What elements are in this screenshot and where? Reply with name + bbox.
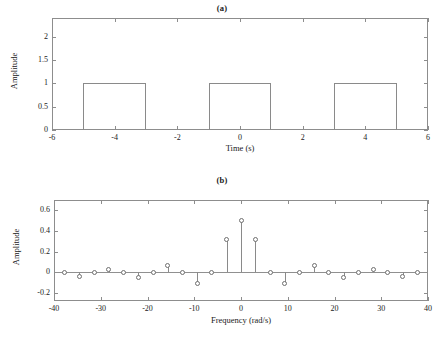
- panel-a-x-tickmark: [177, 126, 178, 130]
- panel-b-x-tickmark: [194, 297, 195, 301]
- panel-a-y-tick-label: 1: [10, 78, 48, 87]
- stem-marker: [239, 218, 244, 223]
- panel-a-x-tickmark-top: [177, 18, 178, 22]
- panel-a-y-tickmark: [52, 107, 56, 108]
- panel-a-y-tickmark-right: [424, 37, 428, 38]
- panel-b-x-tickmark-top: [288, 200, 289, 204]
- panel-a-x-tick-label: -6: [32, 133, 72, 142]
- panel-b-x-tickmark: [241, 297, 242, 301]
- panel-b-y-tickmark-right: [424, 231, 428, 232]
- panel-a-x-tick-label: -4: [95, 133, 135, 142]
- panel-b-x-tick-label: 10: [268, 304, 308, 313]
- panel-b-y-tickmark: [54, 293, 58, 294]
- panel-b-x-tickmark-top: [335, 200, 336, 204]
- panel-a-x-tick-label: 2: [283, 133, 323, 142]
- panel-b-x-tickmark-top: [101, 200, 102, 204]
- stem-marker: [385, 270, 390, 275]
- panel-b-x-tickmark-top: [194, 200, 195, 204]
- stem-marker: [268, 270, 273, 275]
- panel-a-y-tickmark-right: [424, 60, 428, 61]
- panel-b-x-tickmark-top: [241, 200, 242, 204]
- panel-b-y-tickmark-right: [424, 210, 428, 211]
- stem-marker: [106, 267, 111, 272]
- stem-line: [227, 239, 228, 272]
- panel-b-y-tickmark: [54, 210, 58, 211]
- panel-a-y-tick-label: 0.5: [10, 102, 48, 111]
- panel-b-y-tick-label: 0.6: [10, 205, 50, 214]
- stem-marker: [121, 270, 126, 275]
- stem-marker: [224, 237, 229, 242]
- panel-b-title: (b): [0, 175, 444, 185]
- panel-a-x-tick-label: 6: [408, 133, 444, 142]
- panel-a-x-tickmark-top: [428, 18, 429, 22]
- stem-marker: [180, 270, 185, 275]
- stem-marker: [92, 270, 97, 275]
- panel-b-x-tick-label: 0: [221, 304, 261, 313]
- panel-b-y-tickmark: [54, 231, 58, 232]
- stem-marker: [356, 270, 361, 275]
- panel-b-x-tickmark-top: [381, 200, 382, 204]
- stem-line: [241, 221, 242, 273]
- panel-a-y-tickmark: [52, 130, 56, 131]
- panel-a-y-tickmark: [52, 37, 56, 38]
- stem-marker: [209, 270, 214, 275]
- panel-b-x-tick-label: -40: [34, 304, 74, 313]
- panel-b-x-tickmark: [381, 297, 382, 301]
- stem-line: [255, 239, 256, 272]
- panel-a-x-tickmark-top: [52, 18, 53, 22]
- panel-b-x-tickmark: [54, 297, 55, 301]
- panel-b-y-tickmark-right: [424, 252, 428, 253]
- panel-b-x-tickmark: [288, 297, 289, 301]
- panel-b-x-tick-label: -30: [81, 304, 121, 313]
- panel-b-x-tickmark-top: [148, 200, 149, 204]
- panel-a-y-axis-label: Amplitude: [9, 41, 19, 101]
- stem-marker: [62, 270, 67, 275]
- panel-b-y-tick-label: 0: [10, 267, 50, 276]
- panel-a: (a) Amplitude Time (s) 00.511.52-6-4-202…: [0, 0, 444, 170]
- stem-marker: [371, 267, 376, 272]
- panel-b-x-tick-label: -20: [128, 304, 168, 313]
- panel-b-x-tickmark: [148, 297, 149, 301]
- figure-caption-cropped: [0, 332, 444, 341]
- panel-a-y-tick-label: 1.5: [10, 55, 48, 64]
- pulse-rectangle: [209, 83, 272, 130]
- zero-baseline: [55, 272, 427, 273]
- panel-b-x-tickmark: [101, 297, 102, 301]
- stem-marker: [253, 237, 258, 242]
- panel-a-y-tickmark-right: [424, 130, 428, 131]
- stem-marker: [195, 281, 200, 286]
- panel-b-x-tickmark-top: [54, 200, 55, 204]
- panel-a-y-tickmark: [52, 60, 56, 61]
- panel-b-x-tickmark: [428, 297, 429, 301]
- panel-b-y-tick-label: 0.4: [10, 226, 50, 235]
- panel-b-x-tick-label: 40: [408, 304, 444, 313]
- panel-b-y-tick-label: 0.2: [10, 247, 50, 256]
- panel-b-x-tickmark: [335, 297, 336, 301]
- pulse-rectangle: [83, 83, 146, 130]
- stem-marker: [312, 263, 317, 268]
- panel-b-x-tick-label: -10: [174, 304, 214, 313]
- panel-a-y-tickmark-right: [424, 83, 428, 84]
- panel-a-y-tickmark: [52, 83, 56, 84]
- panel-b-x-tick-label: 30: [361, 304, 401, 313]
- panel-a-x-tick-label: 4: [345, 133, 385, 142]
- stem-marker: [136, 275, 141, 280]
- panel-a-y-tickmark-right: [424, 107, 428, 108]
- stem-marker: [77, 274, 82, 279]
- panel-a-title: (a): [0, 3, 444, 13]
- stem-marker: [415, 270, 420, 275]
- panel-b-y-tickmark-right: [424, 293, 428, 294]
- panel-a-x-axis-label: Time (s): [52, 143, 428, 153]
- panel-a-x-tickmark-top: [240, 18, 241, 22]
- panel-a-x-tickmark: [303, 126, 304, 130]
- pulse-rectangle: [334, 83, 397, 130]
- panel-a-x-tickmark-top: [303, 18, 304, 22]
- panel-b-x-tick-label: 20: [315, 304, 355, 313]
- panel-a-x-tickmark-top: [365, 18, 366, 22]
- panel-b-y-tick-label: -0.2: [10, 288, 50, 297]
- stem-marker: [151, 270, 156, 275]
- panel-a-x-tickmark: [428, 126, 429, 130]
- panel-a-x-tick-label: -2: [157, 133, 197, 142]
- panel-a-x-tickmark-top: [115, 18, 116, 22]
- panel-b-x-axis-label: Frequency (rad/s): [54, 315, 428, 325]
